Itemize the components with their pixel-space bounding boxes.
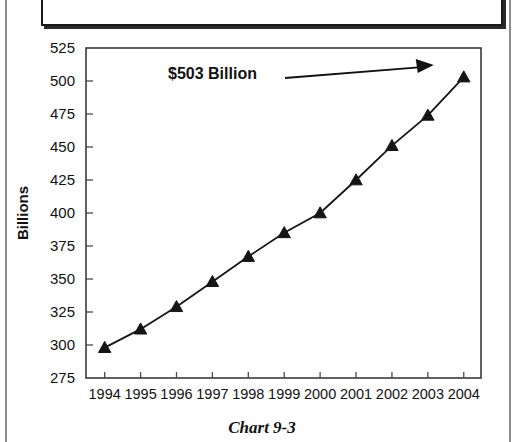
chart-title-box — [41, 0, 503, 26]
y-tick-label: 450 — [50, 138, 75, 155]
x-axis: 1994199519961997199819992000200120022003… — [89, 372, 480, 402]
line-chart: 275300325350375400425450475500525 199419… — [0, 26, 513, 442]
y-tick-label: 275 — [50, 369, 75, 386]
x-tick-label: 2002 — [376, 386, 408, 402]
series-markers — [98, 71, 469, 353]
y-tick-label: 500 — [50, 72, 75, 89]
annotation-arrow-head — [416, 59, 434, 73]
chart-caption: Chart 9-3 — [228, 418, 296, 437]
data-point-marker — [242, 250, 254, 261]
x-tick-label: 2003 — [412, 386, 444, 402]
x-tick-label: 1996 — [160, 386, 192, 402]
y-axis-title: Billions — [14, 186, 31, 240]
annotation-label: $503 Billion — [168, 65, 257, 82]
x-tick-label: 1999 — [268, 386, 300, 402]
data-point-marker — [170, 301, 182, 312]
chart-container: 275300325350375400425450475500525 199419… — [0, 26, 513, 442]
annotation-leader-line — [285, 67, 422, 78]
x-tick-label: 2000 — [304, 386, 336, 402]
y-tick-label: 325 — [50, 303, 75, 320]
x-tick-label: 1995 — [124, 386, 156, 402]
data-point-marker — [278, 227, 290, 238]
data-point-marker — [458, 71, 470, 82]
x-tick-label: 2004 — [448, 386, 480, 402]
y-tick-label: 425 — [50, 171, 75, 188]
y-tick-label: 475 — [50, 105, 75, 122]
data-series-billions — [98, 71, 469, 353]
y-tick-label: 300 — [50, 336, 75, 353]
data-point-marker — [134, 323, 146, 334]
y-tick-label: 400 — [50, 204, 75, 221]
series-line — [105, 77, 464, 348]
y-tick-label: 375 — [50, 237, 75, 254]
data-point-marker — [206, 275, 218, 286]
x-tick-label: 1994 — [89, 386, 121, 402]
y-tick-label: 350 — [50, 270, 75, 287]
plot-frame — [86, 48, 481, 378]
y-tick-label: 525 — [50, 39, 75, 56]
x-tick-label: 1998 — [232, 386, 264, 402]
x-tick-label: 2001 — [340, 386, 372, 402]
x-tick-label: 1997 — [196, 386, 228, 402]
data-point-marker — [98, 341, 110, 352]
annotation-503-billion: $503 Billion — [168, 59, 434, 82]
